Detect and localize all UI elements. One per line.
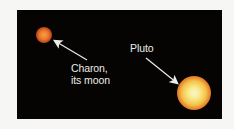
charon-label-line2: its moon [71, 74, 110, 86]
annotation-arrows [17, 10, 222, 119]
pluto-label: Pluto [130, 42, 153, 54]
charon-label-line1: Charon, [71, 62, 110, 74]
pluto-arrow [146, 58, 177, 83]
astronomy-image-panel: Charon, its moon Pluto [17, 10, 222, 119]
charon-label: Charon, its moon [71, 62, 110, 86]
charon-arrow [55, 41, 87, 60]
